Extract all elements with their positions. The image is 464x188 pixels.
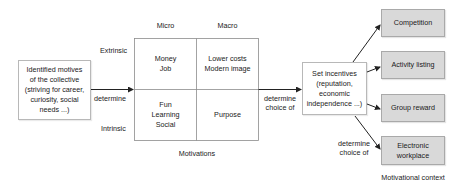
edge-label-determine: determine [94, 94, 126, 103]
context-box-activity-listing: Activity listing [381, 51, 445, 79]
context-box-group-reward-label: Group reward [391, 103, 435, 113]
cell-intrinsic-macro-text: Purpose [214, 110, 241, 120]
cell-intrinsic-micro: Fun Learning Social [135, 90, 196, 140]
context-box-group-reward: Group reward [381, 94, 445, 122]
arrow-to-group-reward [367, 104, 380, 109]
context-box-electronic-workplace-label: Electronic workplace [397, 141, 429, 161]
context-box-competition: Competition [381, 9, 445, 37]
cell-intrinsic-micro-text: Fun Learning Social [152, 100, 180, 130]
edge-label-incentives-to-context: determine choice of [333, 139, 375, 157]
context-box-activity-listing-label: Activity listing [391, 60, 434, 70]
context-caption: Motivational context [373, 173, 453, 182]
row-header-intrinsic: Intrinsic [101, 124, 126, 133]
grid-caption-motivations: Motivations [135, 149, 259, 158]
incentives-text: Set incentives (reputation, economic ind… [307, 69, 363, 109]
cell-extrinsic-macro-text: Lower costs Modern image [205, 54, 251, 74]
cell-extrinsic-micro-text: Money Job [155, 54, 177, 74]
edge-label-grid-to-incentives: determine choice of [259, 94, 301, 112]
row-header-extrinsic: Extrinsic [100, 46, 127, 55]
context-box-electronic-workplace: Electronic workplace [381, 136, 445, 165]
motives-box: Identified motives of the collective (st… [18, 60, 91, 120]
arrow-to-activity-listing [367, 67, 380, 72]
cell-intrinsic-macro: Purpose [197, 90, 258, 140]
context-box-competition-label: Competition [394, 18, 432, 28]
column-header-micro: Micro [135, 21, 196, 30]
incentives-box: Set incentives (reputation, economic ind… [302, 62, 367, 115]
cell-extrinsic-micro: Money Job [135, 39, 196, 89]
column-header-macro: Macro [197, 21, 258, 30]
motives-text: Identified motives of the collective (st… [25, 65, 85, 115]
cell-extrinsic-macro: Lower costs Modern image [197, 39, 258, 89]
arrow-to-competition [353, 25, 380, 62]
